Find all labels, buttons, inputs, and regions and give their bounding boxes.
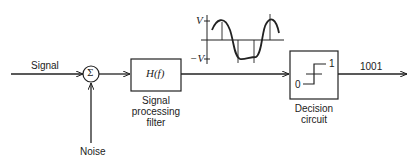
sigma-icon: Σ	[87, 68, 93, 79]
decision-caption-line2: circuit	[284, 114, 344, 125]
filter-caption: Signal processing filter	[131, 95, 181, 128]
decision-caption: Decision circuit	[284, 103, 344, 125]
v-negative-label: −V	[190, 53, 204, 64]
decision-low-label: 0	[295, 79, 301, 90]
signal-label: Signal	[31, 60, 59, 71]
filter-caption-line2: processing	[131, 106, 181, 117]
output-bits-label: 1001	[360, 61, 382, 72]
decision-high-label: 1	[329, 58, 335, 69]
transfer-function-label: H(f)	[146, 68, 164, 79]
v-positive-label: V	[196, 15, 203, 26]
signal-detection-block-diagram: Signal Σ Noise H(f) Signal processing fi…	[0, 0, 417, 161]
diagram-lines	[0, 0, 417, 161]
filter-caption-line3: filter	[131, 117, 181, 128]
waveform-plot	[201, 14, 284, 64]
decision-caption-line1: Decision	[284, 103, 344, 114]
noise-label: Noise	[80, 146, 106, 157]
filter-caption-line1: Signal	[131, 95, 181, 106]
